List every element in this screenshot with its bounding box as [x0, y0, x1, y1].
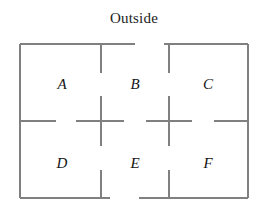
room-label-b: B	[130, 77, 139, 92]
floor-plan-walls-svg	[0, 0, 268, 212]
room-label-e: E	[130, 156, 139, 171]
room-label-c: C	[203, 77, 213, 92]
wall-group	[20, 44, 248, 198]
floor-plan-figure: Outside ABCDEF	[0, 0, 268, 212]
room-label-d: D	[57, 156, 68, 171]
room-label-f: F	[203, 156, 212, 171]
room-label-a: A	[57, 77, 66, 92]
